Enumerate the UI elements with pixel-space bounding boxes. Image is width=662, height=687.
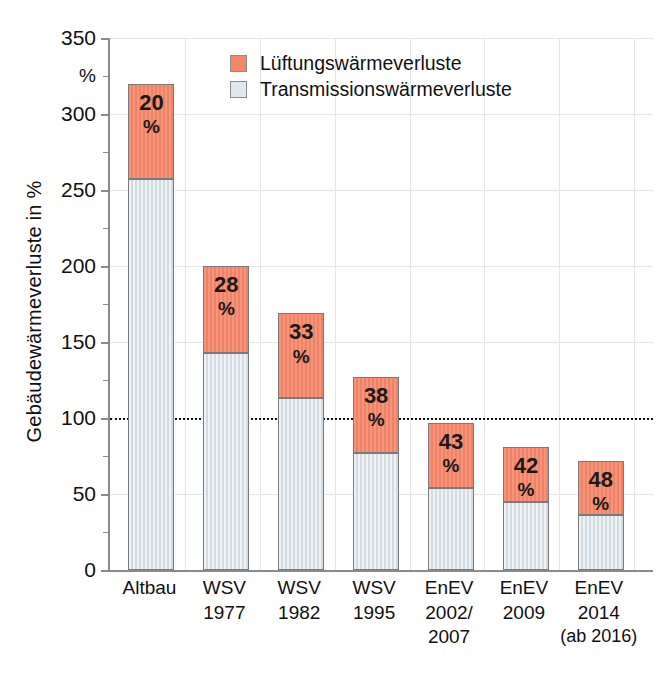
bar-segment-luftung-wsv-1995[interactable]: 38% <box>353 377 399 453</box>
bar-segment-luftung-enev-2002[interactable]: 43% <box>428 423 474 488</box>
gridline-h <box>110 342 653 343</box>
bar-segment-transmission-wsv-1995[interactable] <box>353 453 399 570</box>
gridline-v <box>559 38 560 570</box>
x-axis-label-line: EnEV <box>560 576 637 601</box>
bar-segment-transmission-enev-2009[interactable] <box>503 502 549 570</box>
x-axis-label-wsv-1977: WSV1977 <box>203 576 246 625</box>
bar-value-unit-enev-2009: % <box>504 480 548 499</box>
bar-segment-luftung-wsv-1977[interactable]: 28% <box>203 266 249 353</box>
legend-label-luftung: Lüftungswärmeverluste <box>260 52 462 75</box>
gridline-h <box>110 114 653 115</box>
x-axis-label-line: 1995 <box>352 601 395 626</box>
y-tick-label: 200 <box>61 254 96 278</box>
y-tick-minor <box>103 456 110 457</box>
x-axis-label-line: EnEV <box>500 576 549 601</box>
gridline-v <box>260 38 261 570</box>
bar-enev-2009[interactable]: 42% <box>503 447 549 570</box>
x-axis-label-line: WSV <box>352 576 395 601</box>
y-tick-minor <box>103 532 110 533</box>
y-axis-unit-label: % <box>79 65 96 87</box>
bar-value-unit-altbau: % <box>129 117 173 136</box>
gridline-v <box>634 38 635 570</box>
bar-enev-2002[interactable]: 43% <box>428 423 474 570</box>
y-tick <box>101 266 110 268</box>
bar-segment-transmission-altbau[interactable] <box>128 179 174 570</box>
x-axis-label-wsv-1995: WSV1995 <box>352 576 395 625</box>
bar-value-label-wsv-1995: 38% <box>354 385 398 430</box>
legend-item-transmission: Transmissionswärmeverluste <box>230 76 512 102</box>
bar-segment-transmission-wsv-1982[interactable] <box>278 398 324 570</box>
legend-swatch-transmission-icon <box>230 81 247 98</box>
bar-value-label-wsv-1977: 28% <box>204 274 248 319</box>
bar-value-label-enev-2002: 43% <box>429 431 473 476</box>
bar-wsv-1995[interactable]: 38% <box>353 377 399 570</box>
x-axis-label-line: 2007 <box>425 625 474 650</box>
x-axis-label-enev-2002: EnEV2002/2007 <box>425 576 474 650</box>
y-tick <box>101 494 110 496</box>
bar-altbau[interactable]: 20% <box>128 84 174 570</box>
y-tick <box>101 418 110 420</box>
y-tick-label: 150 <box>61 330 96 354</box>
y-tick-minor <box>103 304 110 305</box>
x-axis-label-line: WSV <box>203 576 246 601</box>
y-axis-title: Gebäudewärmeverluste in % <box>23 42 46 582</box>
y-tick-minor <box>103 76 110 77</box>
x-axis-label-enev-2009: EnEV2009 <box>500 576 549 625</box>
x-axis-label-line: EnEV <box>425 576 474 601</box>
legend-label-transmission: Transmissionswärmeverluste <box>260 78 512 101</box>
x-axis-label-line: Altbau <box>123 576 177 601</box>
x-axis-label-line: 2002/ <box>425 601 474 626</box>
gridline-h <box>110 266 653 267</box>
bar-enev-2014[interactable]: 48% <box>578 461 624 570</box>
bar-value-unit-enev-2014: % <box>579 494 623 513</box>
legend: Lüftungswärmeverluste Transmissionswärme… <box>230 50 512 102</box>
gridline-h <box>110 38 653 39</box>
bar-segment-luftung-enev-2009[interactable]: 42% <box>503 447 549 502</box>
y-tick-label: 350 <box>61 26 96 50</box>
bar-segment-transmission-enev-2002[interactable] <box>428 488 474 570</box>
y-tick <box>101 570 110 572</box>
bar-value-label-enev-2014: 48% <box>579 469 623 514</box>
x-axis-label-line: 1977 <box>203 601 246 626</box>
y-tick-label: 100 <box>61 406 96 430</box>
gridline-h <box>110 190 653 191</box>
y-tick-minor <box>103 228 110 229</box>
bar-value-unit-wsv-1977: % <box>204 299 248 318</box>
y-tick <box>101 114 110 116</box>
bar-value-unit-wsv-1995: % <box>354 410 398 429</box>
bar-segment-luftung-altbau[interactable]: 20% <box>128 84 174 180</box>
gridline-v <box>185 38 186 570</box>
x-axis-labels: AltbauWSV1977WSV1982WSV1995EnEV2002/2007… <box>108 576 653 671</box>
bar-value-label-altbau: 20% <box>129 92 173 137</box>
bar-segment-luftung-enev-2014[interactable]: 48% <box>578 461 624 516</box>
plot-area: 350300250200150100500 % 20%28%33%38%43%4… <box>108 38 653 572</box>
caption-strip <box>0 661 662 687</box>
bar-value-label-wsv-1982: 33% <box>279 321 323 366</box>
bar-wsv-1977[interactable]: 28% <box>203 266 249 570</box>
x-axis-label-line: 1982 <box>278 601 321 626</box>
x-axis-label-altbau: Altbau <box>123 576 177 601</box>
legend-swatch-luftung-icon <box>230 55 247 72</box>
x-axis-label-line: (ab 2016) <box>560 625 637 648</box>
bar-value-label-enev-2009: 42% <box>504 455 548 500</box>
bar-segment-luftung-wsv-1982[interactable]: 33% <box>278 313 324 398</box>
y-tick-label: 250 <box>61 178 96 202</box>
x-axis-label-enev-2014: EnEV2014(ab 2016) <box>560 576 637 649</box>
y-tick <box>101 38 110 40</box>
bar-value-unit-wsv-1982: % <box>279 347 323 366</box>
x-axis-label-line: WSV <box>278 576 321 601</box>
y-tick-label: 0 <box>84 558 96 582</box>
y-tick <box>101 190 110 192</box>
bar-value-unit-enev-2002: % <box>429 456 473 475</box>
bar-segment-transmission-wsv-1977[interactable] <box>203 353 249 570</box>
y-tick-label: 50 <box>73 482 96 506</box>
bar-segment-transmission-enev-2014[interactable] <box>578 515 624 570</box>
gridline-v <box>335 38 336 570</box>
y-tick-minor <box>103 380 110 381</box>
x-axis-label-line: 2014 <box>560 601 637 626</box>
x-axis-label-line: 2009 <box>500 601 549 626</box>
y-tick-label: 300 <box>61 102 96 126</box>
bar-chart: Gebäudewärmeverluste in % 35030025020015… <box>0 0 662 687</box>
gridline-v <box>484 38 485 570</box>
bar-wsv-1982[interactable]: 33% <box>278 313 324 570</box>
